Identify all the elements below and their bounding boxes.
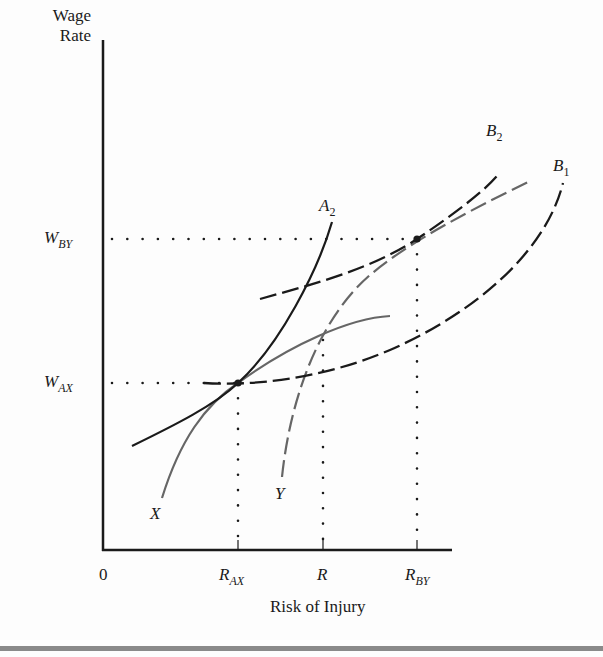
point-ax bbox=[234, 379, 241, 386]
y-axis-label-line2: Rate bbox=[49, 26, 91, 46]
origin-label: 0 bbox=[99, 565, 108, 585]
curve-label-b2: B2 bbox=[486, 121, 502, 141]
bottom-rule bbox=[0, 646, 603, 651]
curve-b2 bbox=[260, 176, 497, 299]
tick-label-r-by: RBY bbox=[405, 565, 429, 585]
curve-label-x: X bbox=[150, 504, 160, 524]
chart-canvas bbox=[0, 0, 603, 657]
curve-x bbox=[162, 316, 390, 498]
point-by bbox=[413, 235, 420, 242]
tick-label-w-by: WBY bbox=[44, 228, 72, 248]
curve-b1 bbox=[204, 183, 563, 384]
tick-label-r-ax: RAX bbox=[219, 565, 244, 585]
tick-label-r: R bbox=[317, 565, 327, 585]
curve-a2 bbox=[132, 222, 332, 446]
curve-label-b1: B1 bbox=[553, 156, 569, 176]
curve-y bbox=[282, 182, 528, 477]
curve-label-a2: A2 bbox=[319, 196, 335, 216]
y-axis-label-line1: Wage bbox=[49, 6, 91, 26]
x-axis-label: Risk of Injury bbox=[270, 597, 365, 617]
curve-label-y: Y bbox=[275, 484, 284, 504]
y-axis-label: Wage Rate bbox=[49, 6, 91, 46]
tick-label-w-ax: WAX bbox=[44, 372, 73, 392]
